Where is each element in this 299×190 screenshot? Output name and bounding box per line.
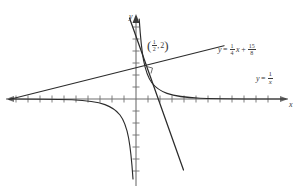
line-secant: [9, 46, 224, 100]
hyperbola-eq-fraction: 1 x: [268, 71, 274, 87]
x-axis-label: x: [289, 101, 293, 109]
point-x-denominator: 2: [152, 46, 157, 52]
y-axis: [133, 14, 140, 186]
plot-canvas: [0, 0, 299, 190]
line-eq-slope-denominator: 4: [230, 50, 235, 56]
line-eq-plus: +: [241, 46, 246, 54]
secant-line-equation-label: y = 1 4 x + 15 8: [218, 43, 256, 57]
graph-figure: y x ( 1 2 , 2 ) y = 1 4 x + 15 8 y = 1 x: [0, 0, 299, 190]
tangent-point-label: ( 1 2 , 2 ): [147, 39, 169, 53]
line-eq-slope-fraction: 1 4: [230, 43, 235, 57]
line-eq-variable: x: [236, 46, 240, 54]
hyperbola-equation-label: y = 1 x: [256, 71, 274, 87]
line-eq-equals: =: [223, 46, 228, 54]
line-eq-const-numerator: 15: [248, 43, 256, 50]
point-comma: ,: [157, 42, 159, 50]
curve-hyperbola-upper-right: [139, 19, 286, 99]
line-eq-const-fraction: 15 8: [248, 43, 256, 57]
hyperbola-eq-equals: =: [261, 75, 266, 83]
line-eq-lhs: y: [218, 46, 222, 54]
hyperbola-eq-denominator: x: [268, 79, 273, 86]
y-axis-arrow-up: [133, 14, 140, 23]
curve-hyperbola-lower-left: [10, 99, 133, 179]
point-x-numerator: 1: [152, 39, 157, 46]
line-eq-const-denominator: 8: [249, 50, 254, 56]
hyperbola-eq-lhs: y: [256, 75, 260, 83]
line-eq-slope-numerator: 1: [230, 43, 235, 50]
point-x-fraction: 1 2: [152, 39, 157, 53]
y-axis-label: y: [129, 13, 133, 21]
